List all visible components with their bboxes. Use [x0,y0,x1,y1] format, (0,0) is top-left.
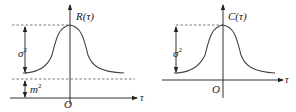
origin-label: O [212,83,220,95]
sigma-squared-label: σ2 [18,46,27,59]
m-squared-label: m2 [30,82,42,95]
autocorrelation-plot: σ2 m2 R(τ) τ O [10,5,144,110]
x-axis-label: τ [140,92,144,103]
y-axis-label: C(τ) [228,10,247,23]
sigma-squared-label: σ2 [173,46,182,59]
autocorrelation-curve [25,25,124,73]
origin-label: O [64,98,72,110]
y-axis-label: R(τ) [75,10,94,23]
diagram-canvas: σ2 m2 R(τ) τ O σ2 C(τ) τ O [0,0,296,112]
autocovariance-plot: σ2 C(τ) τ O [162,5,289,98]
autocovariance-curve [177,25,275,73]
x-axis-label: τ [285,74,289,85]
